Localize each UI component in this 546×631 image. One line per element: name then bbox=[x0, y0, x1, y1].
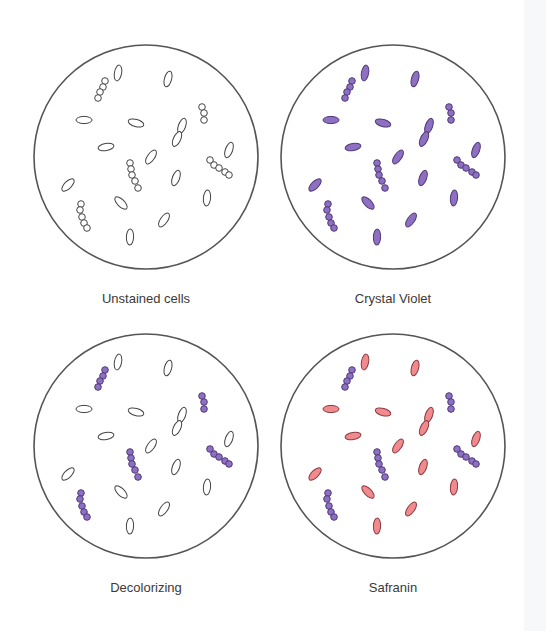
coccus-cell bbox=[226, 461, 233, 468]
bacillus-rod bbox=[360, 484, 376, 500]
bacillus-rod bbox=[390, 148, 405, 165]
bacillus-rod bbox=[344, 142, 361, 152]
coccus-cell bbox=[95, 95, 102, 102]
bacillus-rod bbox=[417, 130, 430, 148]
bacillus-rod bbox=[360, 353, 370, 370]
microscope-field-circle bbox=[281, 334, 505, 558]
coccus-cell bbox=[77, 207, 84, 214]
bacillus-rod bbox=[409, 70, 420, 87]
coccus-cell bbox=[331, 225, 338, 232]
coccus-cell bbox=[95, 384, 102, 391]
bacillus-rod bbox=[223, 430, 235, 447]
bacillus-rod bbox=[156, 211, 171, 228]
bacillus-rod bbox=[113, 353, 123, 370]
coccus-cell bbox=[374, 160, 381, 167]
bacillus-rod bbox=[360, 195, 376, 211]
bacillus-rod bbox=[126, 518, 134, 534]
coccus-cell bbox=[342, 384, 349, 391]
coccus-cell bbox=[374, 449, 381, 456]
coccus-cell bbox=[324, 207, 331, 214]
bacillus-rod bbox=[126, 229, 134, 245]
coccus-cell bbox=[325, 490, 332, 497]
bacillus-rod bbox=[97, 431, 114, 441]
coccus-cell bbox=[375, 166, 382, 173]
bacillus-rod bbox=[344, 431, 361, 441]
coccus-cell bbox=[84, 225, 91, 232]
coccus-cell bbox=[448, 117, 455, 124]
panel-label: Crystal Violet bbox=[293, 291, 493, 306]
panel-label: Safranin bbox=[293, 580, 493, 595]
coccus-cell bbox=[379, 178, 386, 185]
bacillus-rod bbox=[323, 116, 339, 123]
bacillus-rod bbox=[403, 211, 418, 228]
bacillus-rod bbox=[417, 458, 429, 475]
microscope-field-circle bbox=[34, 45, 258, 269]
coccus-cell bbox=[78, 490, 85, 497]
panel-safranin bbox=[281, 334, 505, 558]
bacillus-rod bbox=[409, 359, 420, 376]
bacillus-rod bbox=[113, 484, 129, 500]
coccus-cell bbox=[135, 185, 142, 192]
coccus-cell bbox=[201, 110, 208, 117]
bacillus-rod bbox=[162, 70, 173, 87]
bacillus-rod bbox=[113, 195, 129, 211]
panel-label: Decolorizing bbox=[46, 580, 246, 595]
bacillus-rod bbox=[373, 229, 381, 245]
bacillus-rod bbox=[143, 437, 158, 454]
coccus-cell bbox=[201, 406, 208, 413]
panel-unstained-cells bbox=[34, 45, 258, 269]
microscope-field-circle bbox=[34, 334, 258, 558]
coccus-cell bbox=[448, 110, 455, 117]
bacillus-rod bbox=[170, 458, 182, 475]
microscope-field-circle bbox=[281, 45, 505, 269]
bacillus-rod bbox=[223, 141, 235, 158]
bacillus-rod bbox=[162, 359, 173, 376]
coccus-cell bbox=[216, 454, 223, 461]
coccus-cell bbox=[127, 449, 134, 456]
bacillus-rod bbox=[470, 430, 482, 447]
bacillus-rod bbox=[170, 169, 182, 186]
bacillus-rod bbox=[470, 141, 482, 158]
coccus-cell bbox=[216, 165, 223, 172]
coccus-cell bbox=[379, 467, 386, 474]
bacillus-rod bbox=[374, 117, 391, 128]
panel-decolorizing bbox=[34, 334, 258, 558]
bacillus-rod bbox=[373, 518, 381, 534]
bacillus-rod bbox=[156, 500, 171, 517]
coccus-cell bbox=[135, 474, 142, 481]
bacillus-rod bbox=[307, 177, 323, 193]
bacillus-rod bbox=[76, 116, 92, 123]
bacillus-rod bbox=[60, 466, 76, 482]
coccus-cell bbox=[448, 399, 455, 406]
bacillus-rod bbox=[170, 419, 183, 437]
bacillus-rod bbox=[323, 405, 339, 412]
bacillus-rod bbox=[170, 130, 183, 148]
bacillus-rod bbox=[203, 479, 212, 496]
bacillus-rod bbox=[127, 117, 144, 128]
bacillus-rod bbox=[374, 406, 391, 417]
bacillus-rod bbox=[127, 406, 144, 417]
bacillus-rod bbox=[390, 437, 405, 454]
coccus-cell bbox=[84, 514, 91, 521]
coccus-cell bbox=[342, 95, 349, 102]
panel-label: Unstained cells bbox=[46, 291, 246, 306]
bacillus-rod bbox=[450, 479, 459, 496]
bacillus-rod bbox=[97, 142, 114, 152]
coccus-cell bbox=[132, 178, 139, 185]
bacillus-rod bbox=[417, 169, 429, 186]
coccus-cell bbox=[324, 496, 331, 503]
bacillus-rod bbox=[360, 64, 370, 81]
coccus-cell bbox=[128, 455, 135, 462]
coccus-cell bbox=[201, 399, 208, 406]
panel-crystal-violet bbox=[281, 45, 505, 269]
coccus-cell bbox=[226, 172, 233, 179]
coccus-cell bbox=[325, 201, 332, 208]
coccus-cell bbox=[382, 474, 389, 481]
coccus-cell bbox=[473, 461, 480, 468]
coccus-cell bbox=[78, 201, 85, 208]
coccus-cell bbox=[375, 455, 382, 462]
coccus-cell bbox=[128, 166, 135, 173]
bacillus-rod bbox=[307, 466, 323, 482]
coccus-cell bbox=[132, 467, 139, 474]
bacillus-rod bbox=[450, 190, 459, 207]
